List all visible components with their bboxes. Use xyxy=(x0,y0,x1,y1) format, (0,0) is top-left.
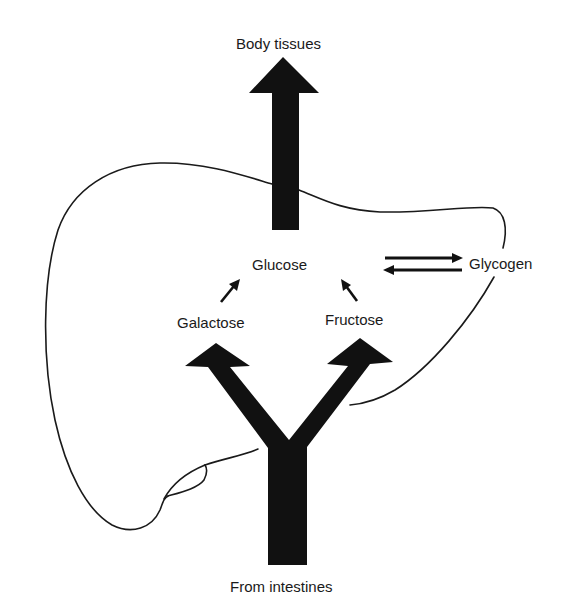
label-glycogen: Glycogen xyxy=(469,256,532,271)
arrow-glycogen-to-glucose xyxy=(383,265,462,275)
arrow-galactose-to-glucose xyxy=(221,279,240,302)
arrow-from-intestines xyxy=(185,338,393,565)
label-from-intestines: From intestines xyxy=(230,579,333,594)
arrow-to-body-tissues xyxy=(249,57,319,230)
label-body-tissues: Body tissues xyxy=(236,36,321,51)
liver-metabolism-diagram xyxy=(0,0,573,612)
arrow-glucose-to-glycogen xyxy=(385,253,463,263)
arrow-fructose-to-glucose xyxy=(341,279,357,301)
label-fructose: Fructose xyxy=(325,312,383,327)
label-galactose: Galactose xyxy=(177,315,245,330)
label-glucose: Glucose xyxy=(252,257,307,272)
